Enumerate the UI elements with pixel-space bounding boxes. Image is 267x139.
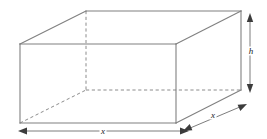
dimension-label-height: h [247,47,255,56]
edge-top-right-depth [176,11,241,44]
dimension-height-arrowhead-bottom [247,84,253,93]
dimension-depth-arrowhead-lower [183,124,192,131]
box-diagram-figure: x x h [0,0,267,139]
box-diagram-canvas [0,0,267,139]
dimension-label-depth: x [210,111,217,120]
edge-top-left-depth [20,11,86,44]
dimension-height-arrowhead-top [247,13,253,22]
dimension-depth-arrowhead-upper [238,104,247,111]
dimension-label-width: x [100,127,107,136]
hidden-edge-bottom-left-depth [20,90,86,123]
dimension-width-arrowhead-left [18,128,27,135]
edge-bottom-right-depth [176,90,241,123]
